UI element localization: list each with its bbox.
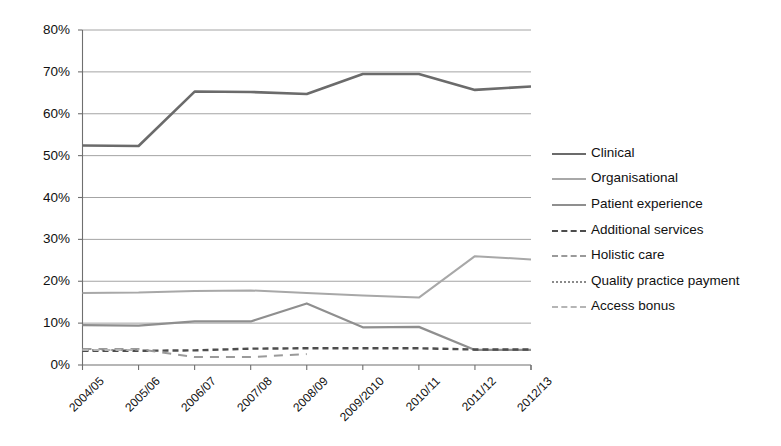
legend-item[interactable]: Quality practice payment [552, 268, 780, 294]
legend-item-label: Organisational [591, 171, 678, 185]
legend-item-label: Access bonus [591, 299, 675, 313]
legend-line-swatch-icon [552, 275, 586, 287]
y-axis-tick-label: 20% [14, 274, 70, 288]
legend-item-label: Holistic care [591, 248, 665, 262]
legend-item[interactable]: Patient experience [552, 191, 780, 217]
legend-item[interactable]: Holistic care [552, 242, 780, 268]
axis-lines [78, 30, 531, 370]
chart-legend: ClinicalOrganisationalPatient experience… [552, 140, 780, 319]
legend-line-swatch-icon [552, 249, 586, 261]
legend-item-label: Patient experience [591, 197, 703, 211]
legend-item[interactable]: Organisational [552, 166, 780, 192]
legend-item[interactable]: Access bonus [552, 294, 780, 320]
series-line-1 [83, 256, 532, 297]
y-axis-tick-label: 80% [14, 23, 70, 37]
y-axis-tick-label: 30% [14, 232, 70, 246]
y-axis-tick-label: 10% [14, 316, 70, 330]
legend-item-label: Clinical [591, 146, 635, 160]
series-line-0 [83, 74, 532, 146]
legend-item-label: Quality practice payment [591, 274, 740, 288]
gridlines [83, 30, 532, 365]
series-line-2 [83, 303, 532, 349]
y-axis-tick-label: 40% [14, 191, 70, 205]
y-axis-tick-label: 60% [14, 107, 70, 121]
y-axis-tick-label: 70% [14, 65, 70, 79]
data-series [83, 74, 532, 357]
legend-line-swatch-icon [552, 147, 586, 159]
legend-item[interactable]: Clinical [552, 140, 780, 166]
legend-line-swatch-icon [552, 224, 586, 236]
legend-line-swatch-icon [552, 300, 586, 312]
legend-item[interactable]: Additional services [552, 217, 780, 243]
y-axis-tick-label: 0% [14, 358, 70, 372]
legend-line-swatch-icon [552, 198, 586, 210]
legend-item-label: Additional services [591, 223, 704, 237]
y-axis-tick-label: 50% [14, 149, 70, 163]
chart-container: 80%70%60%50%40%30%20%10%0% 2004/052005/0… [0, 0, 781, 446]
legend-line-swatch-icon [552, 172, 586, 184]
